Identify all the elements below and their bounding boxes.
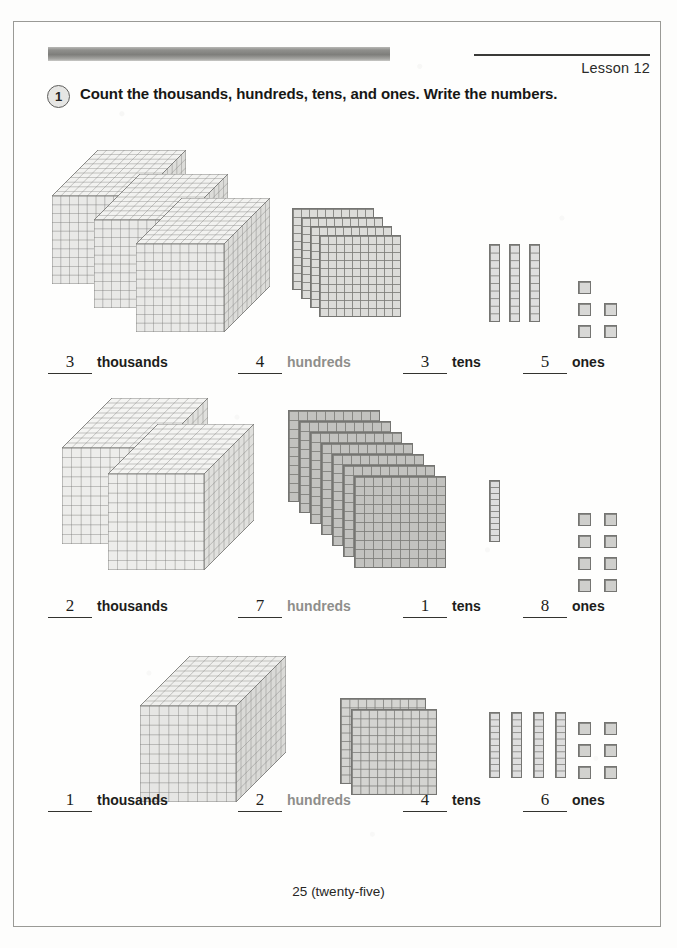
one-unit [578, 722, 591, 735]
one-unit [604, 744, 617, 757]
answer-strip: 2 thousands 7 hundreds 1 tens 8 ones [48, 594, 648, 618]
hundreds-blank[interactable]: 2 [238, 790, 282, 812]
hundreds-blank[interactable]: 4 [238, 352, 282, 374]
ones-unit-group [578, 281, 617, 338]
ones-unit-group [578, 722, 617, 779]
thousand-cube [108, 424, 254, 570]
thousands-cube-stack [140, 656, 286, 802]
hundreds-label: hundreds [287, 598, 351, 614]
one-unit [604, 579, 617, 592]
hundreds-flat-stack [288, 410, 446, 568]
tens-rod-group [489, 244, 540, 322]
answer-thousands: 1 thousands [48, 790, 238, 812]
workbook-page: Lesson 12 1 Count the thousands, hundred… [0, 0, 677, 948]
one-unit [578, 303, 591, 316]
ten-rod [489, 712, 500, 778]
thousands-label: thousands [97, 792, 168, 808]
tens-rod-group [489, 480, 500, 542]
tens-blank[interactable]: 1 [403, 596, 447, 618]
problem-row: 3 thousands 4 hundreds 3 tens 5 ones [0, 146, 677, 386]
ones-blank[interactable]: 6 [523, 790, 567, 812]
ten-rod [489, 244, 500, 322]
answer-thousands: 3 thousands [48, 352, 238, 374]
answer-ones: 8 ones [523, 596, 605, 618]
one-unit [604, 513, 617, 526]
hundreds-blank[interactable]: 7 [238, 596, 282, 618]
problem-number-badge: 1 [47, 85, 70, 108]
one-unit [604, 535, 617, 548]
hundred-flat [354, 476, 446, 568]
answer-strip: 3 thousands 4 hundreds 3 tens 5 ones [48, 350, 648, 374]
thousands-cube-stack [52, 150, 270, 332]
hundreds-label: hundreds [287, 792, 351, 808]
ten-rod [509, 244, 520, 322]
problem-row: 2 thousands 7 hundreds 1 tens 8 ones [0, 388, 677, 628]
tens-label: tens [452, 354, 481, 370]
thousands-label: thousands [97, 354, 168, 370]
ones-label: ones [572, 792, 605, 808]
one-unit [578, 766, 591, 779]
ones-label: ones [572, 598, 605, 614]
answer-thousands: 2 thousands [48, 596, 238, 618]
one-unit [578, 557, 591, 570]
thousands-blank[interactable]: 1 [48, 790, 92, 812]
ten-rod [533, 712, 544, 778]
hundreds-flat-stack [340, 698, 437, 795]
hundreds-label: hundreds [287, 354, 351, 370]
ones-blank[interactable]: 5 [523, 352, 567, 374]
tens-label: tens [452, 598, 481, 614]
one-unit [604, 557, 617, 570]
hundred-flat [351, 709, 437, 795]
answer-hundreds: 7 hundreds [238, 596, 403, 618]
one-unit [578, 579, 591, 592]
one-unit [578, 535, 591, 548]
answer-tens: 3 tens [403, 352, 523, 374]
answer-ones: 5 ones [523, 352, 605, 374]
lesson-label: Lesson 12 [474, 60, 650, 76]
thousands-blank[interactable]: 2 [48, 596, 92, 618]
one-unit [604, 722, 617, 735]
one-unit [604, 766, 617, 779]
thousands-cube-stack [62, 398, 254, 570]
thousands-blank[interactable]: 3 [48, 352, 92, 374]
ones-blank[interactable]: 8 [523, 596, 567, 618]
ones-unit-group [578, 513, 617, 592]
lesson-rule [474, 54, 650, 56]
header-decorative-bar [48, 47, 390, 61]
ten-rod [555, 712, 566, 778]
hundreds-flat-stack [292, 208, 401, 317]
ones-label: ones [572, 354, 605, 370]
hundred-flat [319, 235, 401, 317]
one-unit [604, 303, 617, 316]
one-unit [578, 513, 591, 526]
tens-label: tens [452, 792, 481, 808]
ten-rod [511, 712, 522, 778]
thousands-label: thousands [97, 598, 168, 614]
thousand-cube [136, 198, 270, 332]
one-unit [578, 744, 591, 757]
one-unit [604, 325, 617, 338]
answer-ones: 6 ones [523, 790, 605, 812]
one-unit [578, 281, 591, 294]
answer-hundreds: 4 hundreds [238, 352, 403, 374]
ten-rod [489, 480, 500, 542]
ten-rod [529, 244, 540, 322]
tens-blank[interactable]: 3 [403, 352, 447, 374]
tens-rod-group [489, 712, 566, 778]
answer-strip: 1 thousands 2 hundreds 4 tens 6 ones [48, 788, 648, 812]
problem-row: 1 thousands 2 hundreds 4 tens 6 ones [0, 630, 677, 820]
instruction-text: Count the thousands, hundreds, tens, and… [80, 84, 580, 104]
page-footer: 25 (twenty-five) [0, 884, 677, 899]
answer-tens: 1 tens [403, 596, 523, 618]
one-unit [578, 325, 591, 338]
thousand-cube [140, 656, 286, 802]
